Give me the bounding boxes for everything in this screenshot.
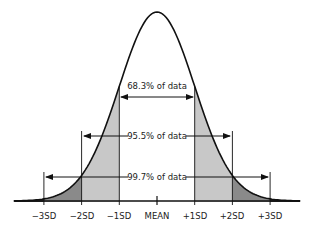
- label-plus-1sd: +1SD: [183, 211, 208, 221]
- label-mean: MEAN: [145, 211, 170, 221]
- annotation-99-label: 99.7% of data: [127, 172, 187, 182]
- annotation-68-label: 68.3% of data: [127, 81, 187, 91]
- label-minus-3sd: −3SD: [32, 211, 57, 221]
- shaded-region: [270, 0, 300, 202]
- label-minus-2sd: −2SD: [70, 211, 95, 221]
- label-plus-3sd: +3SD: [258, 211, 283, 221]
- label-plus-2sd: +2SD: [220, 211, 245, 221]
- label-minus-1sd: −1SD: [107, 211, 132, 221]
- normal-distribution-chart: 68.3% of data 95.5% of data 99.7% of dat…: [0, 0, 321, 237]
- x-axis-labels: −3SD −2SD −1SD MEAN +1SD +2SD +3SD: [32, 211, 283, 221]
- annotation-95-label: 95.5% of data: [127, 131, 187, 141]
- shaded-region: [232, 0, 270, 202]
- shaded-region: [14, 0, 44, 202]
- shaded-region: [44, 0, 82, 202]
